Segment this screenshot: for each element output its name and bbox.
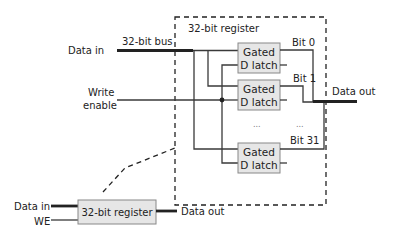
data-in-label: Data in (68, 45, 104, 56)
write-enable-label-2: enable (83, 100, 117, 111)
data-out-label: Data out (332, 86, 376, 97)
summary-data-out-label: Data out (181, 206, 225, 217)
svg-text:Gated: Gated (243, 46, 275, 58)
latch-bit0: Gated D latch (238, 43, 287, 73)
write-enable-label-1: Write (88, 87, 114, 98)
register-diagram: 32-bit register Data in 32-bit bus Write… (0, 0, 411, 236)
summary-we-label: WE (34, 216, 50, 227)
svg-text:D latch: D latch (240, 96, 277, 108)
svg-text:Gated: Gated (243, 146, 275, 158)
summary-block-label: 32-bit register (81, 207, 153, 218)
bit31-label: Bit 31 (290, 135, 319, 146)
svg-text:Gated: Gated (243, 83, 275, 95)
bit1-label: Bit 1 (293, 73, 316, 84)
bus-label: 32-bit bus (122, 36, 172, 47)
ellipsis-latches: ... (253, 120, 261, 129)
summary-data-in-label: Data in (14, 201, 50, 212)
bit0-label: Bit 0 (292, 37, 315, 48)
svg-text:D latch: D latch (240, 59, 277, 71)
detail-box-label: 32-bit register (188, 23, 260, 34)
latch-bit31: Gated D latch (238, 143, 287, 173)
register-summary-block: Data in WE 32-bit register Data out (14, 200, 225, 227)
we-to-bit31-wire (222, 100, 238, 163)
junction-dot (220, 98, 225, 103)
svg-text:D latch: D latch (240, 159, 277, 171)
latch-bit1: Gated D latch (238, 80, 287, 110)
bit1-data-wire (208, 51, 238, 87)
ellipsis-bits: ... (296, 120, 304, 129)
we-to-bit0-wire (222, 65, 238, 100)
zoom-connector-line (103, 148, 175, 192)
